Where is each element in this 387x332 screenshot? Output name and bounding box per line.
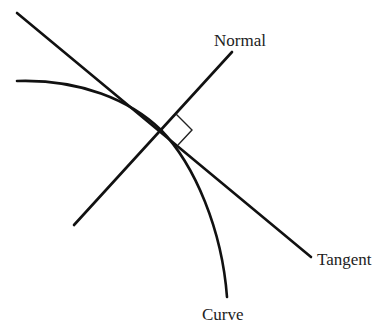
right-angle-marker xyxy=(176,114,192,145)
tangent-line xyxy=(17,13,311,257)
curve-label: Curve xyxy=(202,305,244,324)
normal-label: Normal xyxy=(214,31,266,50)
normal-line xyxy=(74,52,232,225)
tangent-label: Tangent xyxy=(317,250,372,269)
curve-path xyxy=(17,81,227,297)
tangent-normal-diagram: Normal Tangent Curve xyxy=(0,0,387,332)
